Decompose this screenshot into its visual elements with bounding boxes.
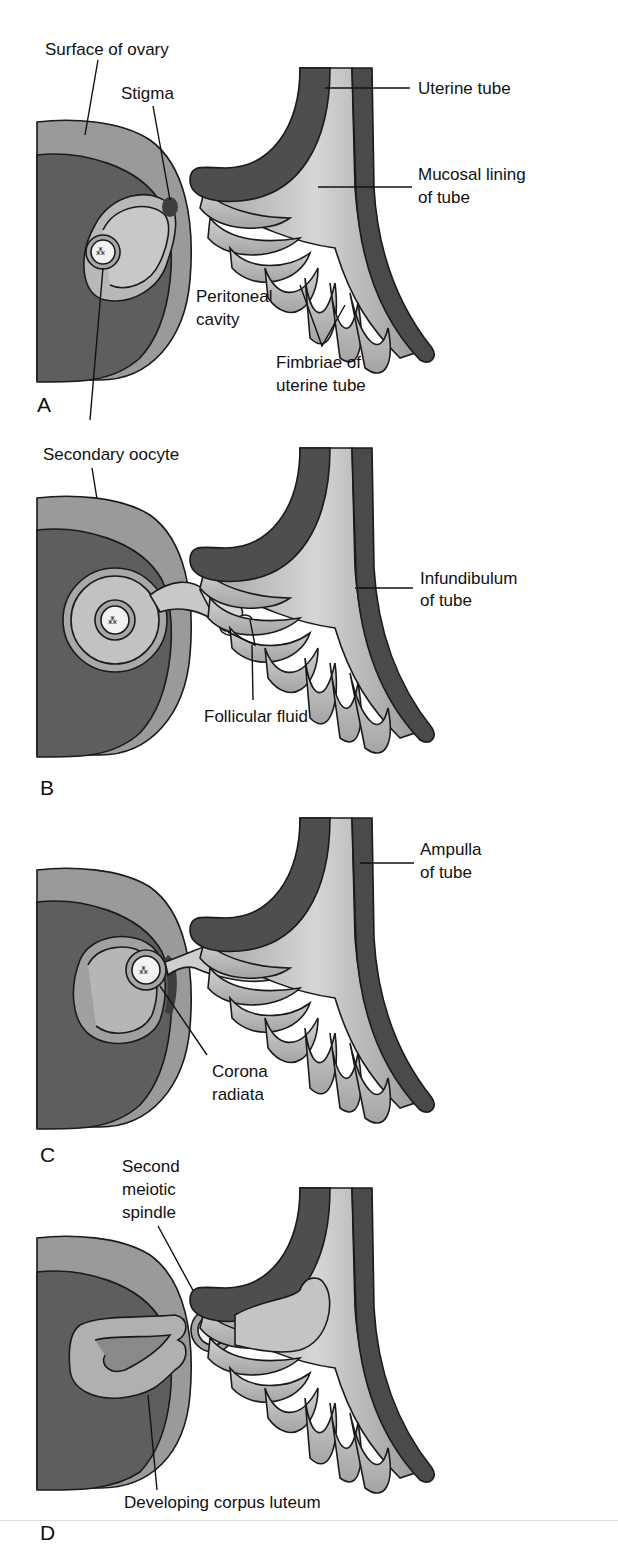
label-fimbriae-2: uterine tube xyxy=(276,376,366,395)
panel-c: ⁂ Ampulla of tube Corona radiata C xyxy=(37,818,482,1166)
label-second-meiotic-spindle-3: spindle xyxy=(122,1203,176,1222)
panel-b: Secondary oocyte ⁂ Infundibulum of tube … xyxy=(37,445,517,799)
label-mucosal-lining-1: Mucosal lining xyxy=(418,165,526,184)
panel-a: ⁂ Surface of ovary Stigma Uterine tube M… xyxy=(37,40,526,416)
label-infundibulum-2: of tube xyxy=(420,591,472,610)
svg-text:⁂: ⁂ xyxy=(139,966,148,976)
label-ampulla-1: Ampulla xyxy=(420,840,482,859)
label-second-meiotic-spindle-2: meiotic xyxy=(122,1180,176,1199)
label-fimbriae-1: Fimbriae of xyxy=(276,353,361,372)
panel-d: Second meiotic spindle ⁂ Developing corp… xyxy=(37,1157,434,1544)
ovulation-diagram: ⁂ Surface of ovary Stigma Uterine tube M… xyxy=(0,0,618,1557)
panel-letter-b: B xyxy=(40,776,54,799)
panel-letter-c: C xyxy=(40,1143,55,1166)
panel-letter-d: D xyxy=(40,1521,55,1544)
label-ampulla-2: of tube xyxy=(420,863,472,882)
chromosome-glyph: ⁂ xyxy=(96,247,105,257)
label-peritoneal-cavity-2: cavity xyxy=(196,310,240,329)
label-corona-radiata-1: Corona xyxy=(212,1062,268,1081)
label-surface-of-ovary: Surface of ovary xyxy=(45,40,169,59)
label-second-meiotic-spindle-1: Second xyxy=(122,1157,180,1176)
label-secondary-oocyte: Secondary oocyte xyxy=(43,445,179,464)
label-infundibulum-1: Infundibulum xyxy=(420,569,517,588)
label-developing-corpus-luteum: Developing corpus luteum xyxy=(124,1493,321,1512)
label-uterine-tube: Uterine tube xyxy=(418,79,511,98)
page-divider xyxy=(0,1520,618,1521)
label-follicular-fluid: Follicular fluid xyxy=(204,707,308,726)
panel-letter-a: A xyxy=(37,393,51,416)
label-peritoneal-cavity-1: Peritoneal xyxy=(196,287,273,306)
label-mucosal-lining-2: of tube xyxy=(418,188,470,207)
label-corona-radiata-2: radiata xyxy=(212,1085,265,1104)
svg-text:⁂: ⁂ xyxy=(108,616,117,626)
label-stigma: Stigma xyxy=(121,84,174,103)
